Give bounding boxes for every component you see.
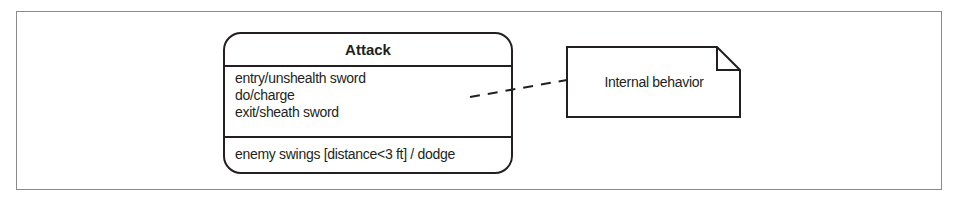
- note-graphics: [0, 0, 959, 201]
- dashed-connector: [470, 80, 567, 97]
- note-text: Internal behavior: [567, 46, 741, 118]
